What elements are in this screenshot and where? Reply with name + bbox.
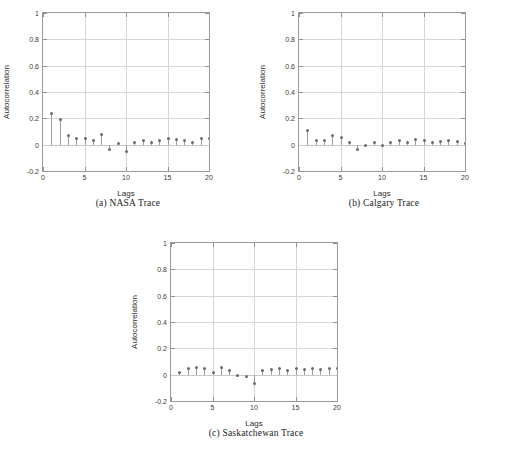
- y-axis-title-saskatchewan: Autocorrelation: [130, 295, 139, 349]
- y-tick-mark-right: [205, 92, 209, 93]
- x-tick-label: 0: [169, 404, 173, 411]
- y-tick-label: 0.4: [29, 89, 39, 96]
- x-tick-label: 10: [250, 404, 258, 411]
- x-axis-title-saskatchewan: Lags: [170, 419, 338, 428]
- y-tick-label: 0.4: [285, 89, 295, 96]
- x-tick-mark-top: [341, 13, 342, 17]
- y-tick-label: 1: [35, 10, 39, 17]
- y-tick-mark-right: [461, 66, 465, 67]
- gridline-vertical: [296, 243, 297, 401]
- x-tick-label: 15: [420, 174, 428, 181]
- chart-nasa: -0.200.20.40.60.8105101520: [42, 12, 210, 172]
- stem-line: [60, 120, 61, 145]
- stem-marker: [270, 368, 273, 371]
- x-tick-mark-top: [171, 243, 172, 247]
- y-tick-mark: [43, 92, 47, 93]
- stem-marker: [414, 138, 417, 141]
- stem-marker: [167, 137, 170, 140]
- x-tick-label: 15: [164, 174, 172, 181]
- stem-marker: [319, 368, 322, 371]
- y-tick-label: 0.8: [157, 266, 167, 273]
- stem-marker: [261, 369, 264, 372]
- plot-area-saskatchewan: [171, 243, 337, 401]
- y-tick-mark-right: [333, 269, 337, 270]
- y-tick-mark: [299, 118, 303, 119]
- gridline-vertical: [213, 243, 214, 401]
- plot-area-nasa: [43, 13, 209, 171]
- stem-marker: [423, 139, 426, 142]
- y-tick-mark: [171, 322, 175, 323]
- x-tick-mark: [43, 167, 44, 171]
- y-tick-label: 0.2: [157, 345, 167, 352]
- stem-line: [51, 113, 52, 145]
- y-tick-label: 0: [163, 371, 167, 378]
- y-axis-title-nasa: Autocorrelation: [2, 65, 11, 119]
- x-tick-label: 10: [378, 174, 386, 181]
- panel-saskatchewan: -0.200.20.40.60.8105101520 Autocorrelati…: [128, 230, 384, 448]
- x-tick-label: 20: [205, 174, 213, 181]
- y-tick-mark: [43, 66, 47, 67]
- x-tick-mark-top: [424, 13, 425, 17]
- stem-marker: [117, 142, 120, 145]
- y-tick-label: -0.2: [283, 168, 295, 175]
- stem-marker: [456, 140, 459, 143]
- stem-marker: [100, 133, 103, 136]
- caption-saskatchewan: (c) Saskatchewan Trace: [128, 428, 384, 438]
- stem-marker: [178, 371, 181, 374]
- y-tick-label: 0: [35, 141, 39, 148]
- stem-marker: [59, 118, 62, 121]
- stem-marker: [158, 139, 161, 142]
- stem-marker: [142, 139, 145, 142]
- gridline-vertical: [168, 13, 169, 171]
- x-tick-label: 0: [297, 174, 301, 181]
- y-tick-label: -0.2: [27, 168, 39, 175]
- stem-marker: [364, 144, 367, 147]
- y-tick-label: 0: [291, 141, 295, 148]
- caption-calgary: (b) Calgary Trace: [256, 198, 512, 208]
- y-tick-label: 1: [163, 240, 167, 247]
- stem-marker: [447, 139, 450, 142]
- x-axis-title-calgary: Lags: [298, 189, 466, 198]
- x-tick-mark-top: [299, 13, 300, 17]
- stem-marker: [75, 137, 78, 140]
- stem-marker: [253, 382, 256, 385]
- stem-marker: [439, 140, 442, 143]
- x-tick-label: 10: [122, 174, 130, 181]
- x-tick-label: 20: [461, 174, 469, 181]
- stem-marker: [323, 139, 326, 142]
- stem-marker: [315, 139, 318, 142]
- stem-marker: [108, 148, 111, 151]
- stem-marker: [50, 112, 53, 115]
- y-tick-mark-right: [333, 348, 337, 349]
- stem-marker: [67, 134, 70, 137]
- stem-line: [307, 130, 308, 144]
- gridline-vertical: [382, 13, 383, 171]
- stem-marker: [278, 367, 281, 370]
- y-tick-mark: [171, 348, 175, 349]
- y-tick-mark-right: [333, 296, 337, 297]
- y-tick-mark: [43, 118, 47, 119]
- x-tick-mark-top: [43, 13, 44, 17]
- y-tick-label: 0.8: [29, 36, 39, 43]
- panel-calgary: -0.200.20.40.60.8105101520 Autocorrelati…: [256, 0, 512, 218]
- panel-nasa: -0.200.20.40.60.8105101520 Autocorrelati…: [0, 0, 256, 218]
- x-tick-mark-top: [296, 243, 297, 247]
- y-tick-label: 0.6: [285, 62, 295, 69]
- y-tick-mark: [43, 39, 47, 40]
- stem-marker: [306, 129, 309, 132]
- x-tick-mark: [382, 167, 383, 171]
- stem-marker: [183, 139, 186, 142]
- stem-marker: [303, 368, 306, 371]
- stem-marker: [84, 137, 87, 140]
- stem-marker: [245, 375, 248, 378]
- stem-marker: [286, 369, 289, 372]
- x-tick-label: 5: [339, 174, 343, 181]
- stem-marker: [311, 367, 314, 370]
- x-tick-mark: [341, 167, 342, 171]
- stem-marker: [195, 366, 198, 369]
- gridline-vertical: [341, 13, 342, 171]
- x-tick-mark: [213, 397, 214, 401]
- y-tick-mark-right: [461, 118, 465, 119]
- y-tick-mark-right: [461, 92, 465, 93]
- gridline-vertical: [424, 13, 425, 171]
